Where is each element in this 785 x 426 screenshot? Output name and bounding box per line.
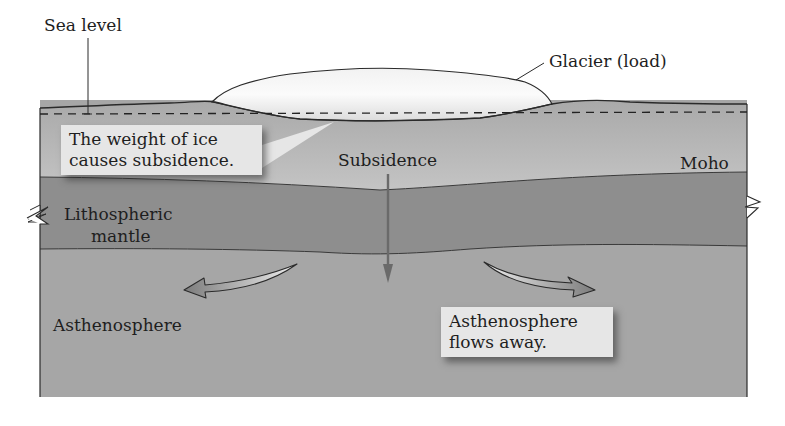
weight-of-ice-callout: The weight of ice causes subsidence. bbox=[61, 125, 262, 175]
asthenosphere-flows-callout-line2: flows away. bbox=[449, 332, 605, 353]
lithospheric-mantle-label-line1: Lithospheric bbox=[64, 205, 172, 224]
moho-label: Moho bbox=[680, 154, 729, 173]
asthenosphere-label: Asthenosphere bbox=[53, 316, 182, 335]
lithospheric-mantle-label-line2: mantle bbox=[91, 227, 151, 246]
sea-level-label: Sea level bbox=[44, 16, 122, 35]
weight-of-ice-callout-line2: causes subsidence. bbox=[69, 150, 254, 171]
asthenosphere-flows-callout: Asthenosphere flows away. bbox=[441, 307, 613, 357]
glacier-leader bbox=[516, 63, 544, 80]
right-break-mark bbox=[745, 196, 760, 218]
glacier-label: Glacier (load) bbox=[549, 52, 667, 71]
asthenosphere-flows-callout-line1: Asthenosphere bbox=[449, 311, 605, 332]
subsidence-label: Subsidence bbox=[338, 151, 437, 170]
weight-of-ice-callout-line1: The weight of ice bbox=[69, 129, 254, 150]
